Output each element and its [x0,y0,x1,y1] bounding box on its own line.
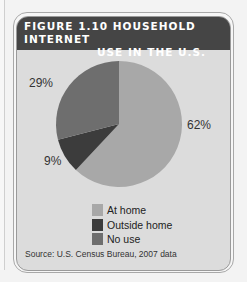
legend-swatch [92,219,103,231]
legend-label: Outside home [107,219,172,231]
legend-item-no-use: No use [92,232,172,247]
legend-swatch [92,204,103,216]
legend-label: At home [107,204,146,216]
chart-legend: At home Outside home No use [92,203,172,247]
legend-swatch [92,233,103,245]
legend-item-outside-home: Outside home [92,218,172,233]
label-no-use: 29% [29,76,53,90]
label-at-home: 62% [187,118,211,132]
legend-label: No use [107,233,140,245]
source-note: Source: U.S. Census Bureau, 2007 data [25,249,177,259]
legend-item-at-home: At home [92,203,172,218]
label-outside-home: 9% [44,154,61,168]
